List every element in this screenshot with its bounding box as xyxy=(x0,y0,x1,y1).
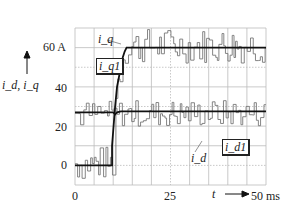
x-tick-50: 50 ms xyxy=(251,190,280,202)
y-tick-0: 0 xyxy=(61,159,67,171)
x-tick-0: 0 xyxy=(72,190,78,202)
iq-label: i_q xyxy=(98,33,113,45)
x-tick-25: 25 xyxy=(164,190,176,202)
y-tick-40: 40 xyxy=(55,82,67,94)
y-tick-20: 20 xyxy=(55,121,67,133)
y-axis-label: i_d, i_q xyxy=(2,78,39,93)
x-axis-label: t xyxy=(212,188,215,200)
y-tick-60: 60 A xyxy=(43,41,66,53)
iq1-label-box: i_q1 xyxy=(96,58,124,75)
chart-canvas xyxy=(0,0,290,217)
id-label: i_d xyxy=(191,152,206,164)
id1-label-box: i_d1 xyxy=(222,139,250,156)
